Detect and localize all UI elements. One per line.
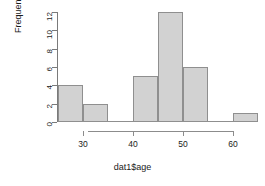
x-axis-tick bbox=[133, 131, 134, 136]
x-axis-line bbox=[88, 131, 233, 132]
x-axis-tick-label: 30 bbox=[78, 140, 87, 149]
histogram-bar bbox=[58, 85, 83, 122]
y-axis-tick-label: 10 bbox=[46, 30, 54, 39]
x-axis-tick-label: 50 bbox=[178, 140, 187, 149]
y-axis-tick-label: 4 bbox=[46, 85, 54, 89]
y-axis-tick-label: 12 bbox=[46, 12, 54, 21]
plot-area bbox=[58, 12, 258, 122]
histogram-bar bbox=[133, 76, 158, 122]
x-axis-tick bbox=[233, 131, 234, 136]
histogram-bar bbox=[233, 113, 258, 122]
y-axis-tick-label: 2 bbox=[46, 104, 54, 108]
x-axis-title: dat1$age bbox=[0, 163, 265, 172]
histogram-bar bbox=[158, 12, 183, 122]
y-axis-tick-label: 6 bbox=[46, 67, 54, 71]
y-axis-tick-label: 0 bbox=[46, 122, 54, 126]
x-axis-tick-label: 60 bbox=[228, 140, 237, 149]
histogram-figure: 121086420 Frequency 30405060 dat1$age bbox=[0, 0, 265, 186]
x-axis-tick-label: 40 bbox=[128, 140, 137, 149]
y-axis-tick-label: 8 bbox=[46, 49, 54, 53]
histogram-bar-empty bbox=[108, 121, 133, 122]
histogram-bar bbox=[83, 104, 108, 122]
y-axis-title: Frequency bbox=[14, 21, 23, 33]
histogram-bar bbox=[183, 67, 208, 122]
x-axis-tick bbox=[83, 131, 84, 136]
histogram-bar-empty bbox=[208, 121, 233, 122]
x-axis-tick bbox=[183, 131, 184, 136]
